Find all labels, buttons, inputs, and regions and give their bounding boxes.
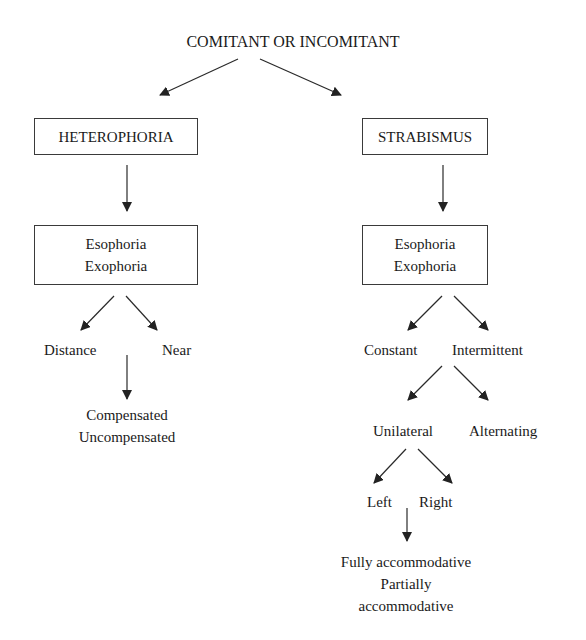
left-label: Left — [367, 491, 392, 513]
arrow-constant — [408, 296, 442, 330]
arrow-root-right — [260, 59, 341, 95]
arrow-root-left — [160, 59, 238, 95]
distance-label: Distance — [44, 339, 96, 361]
root-label: COMITANT OR INCOMITANT — [143, 31, 443, 53]
right-esophoria: Esophoria — [395, 233, 456, 255]
arrow-distance — [81, 296, 114, 330]
accommodative-label: accommodative — [306, 595, 506, 617]
compensated-label: Compensated — [47, 404, 207, 426]
arrow-unilateral — [408, 366, 442, 400]
heterophoria-title: HETEROPHORIA — [59, 126, 174, 148]
fully-accommodative-label: Fully accommodative — [306, 551, 506, 573]
strabismus-types-box: Esophoria Exophoria — [362, 225, 488, 285]
alternating-label: Alternating — [469, 420, 537, 442]
near-label: Near — [162, 339, 191, 361]
left-esophoria: Esophoria — [86, 233, 147, 255]
arrow-near — [126, 296, 157, 330]
intermittent-label: Intermittent — [452, 339, 523, 361]
right-label: Right — [419, 491, 452, 513]
arrow-left — [374, 449, 406, 483]
unilateral-label: Unilateral — [373, 420, 433, 442]
arrow-right — [418, 449, 452, 483]
connector-arrows — [0, 0, 586, 640]
constant-label: Constant — [364, 339, 417, 361]
right-exophoria: Exophoria — [394, 255, 456, 277]
arrow-intermittent — [454, 296, 488, 330]
arrow-alternating — [454, 366, 488, 400]
heterophoria-types-box: Esophoria Exophoria — [34, 225, 198, 285]
left-exophoria: Exophoria — [85, 255, 147, 277]
strabismus-title: STRABISMUS — [378, 126, 472, 148]
strabismus-box: STRABISMUS — [362, 118, 488, 155]
heterophoria-box: HETEROPHORIA — [34, 118, 198, 155]
partially-label: Partially — [306, 573, 506, 595]
uncompensated-label: Uncompensated — [47, 426, 207, 448]
